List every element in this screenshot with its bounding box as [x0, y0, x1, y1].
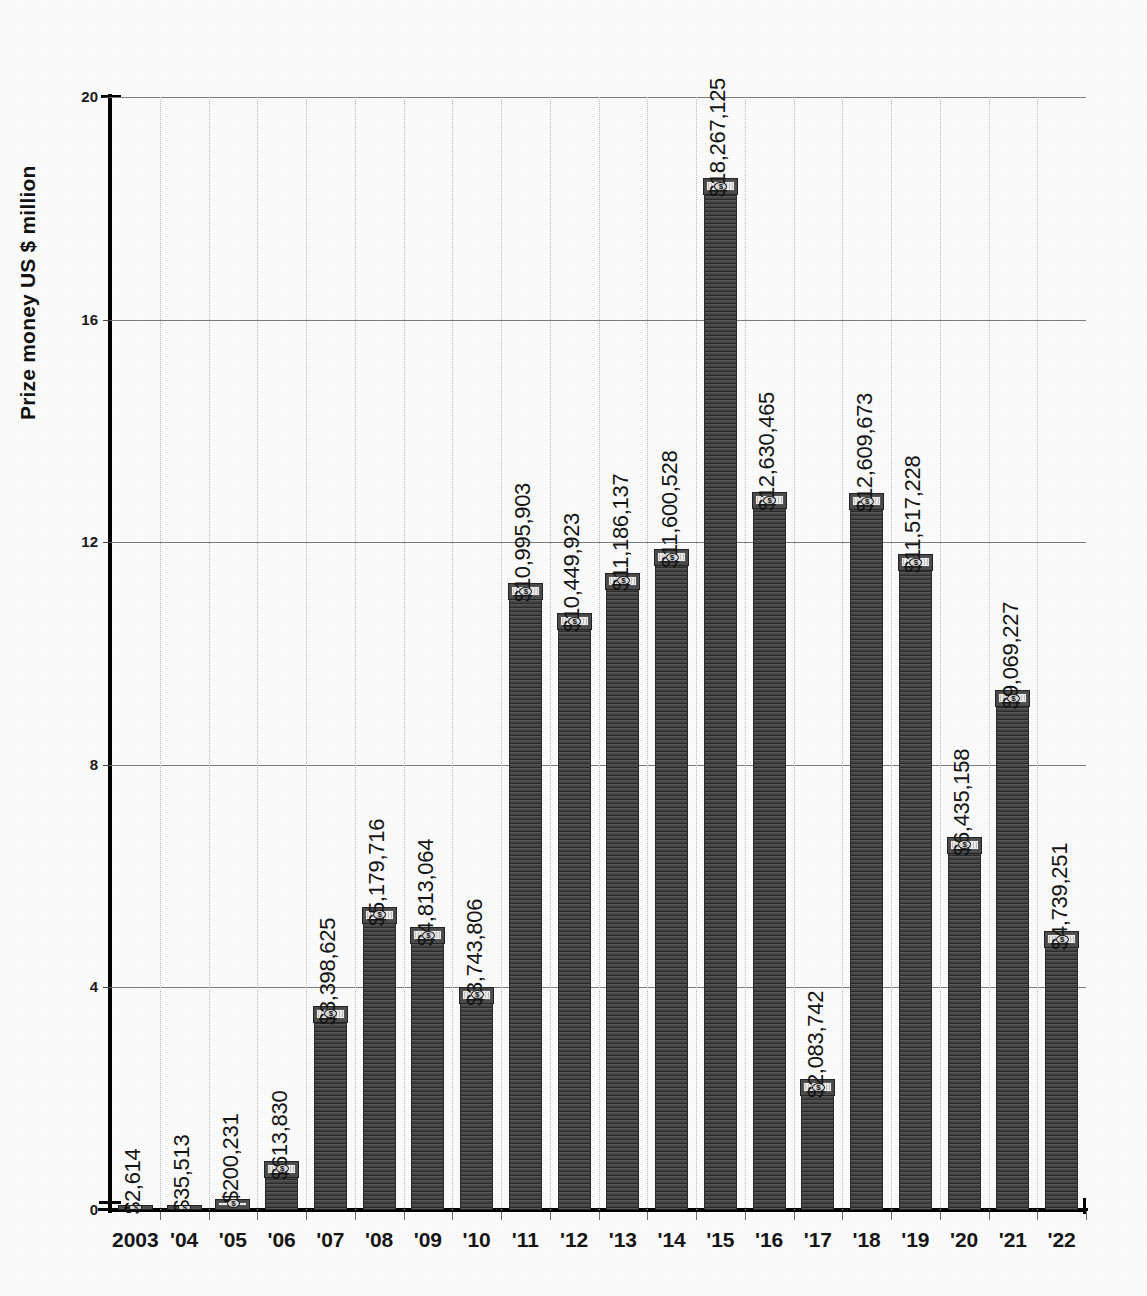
dollar-sign-icon: $	[861, 497, 874, 506]
bar-fill	[1045, 946, 1078, 1210]
bar[interactable]: $	[460, 1002, 493, 1210]
dollar-glyph: $	[472, 989, 483, 1001]
bar[interactable]: $	[558, 628, 591, 1210]
x-tick-mark-10	[647, 1211, 648, 1220]
dollar-sign-icon: $	[471, 990, 484, 999]
vertical-gridline-13	[745, 97, 746, 1210]
bar-value-label: $12,609,673	[852, 393, 878, 512]
bar-column: $	[850, 508, 883, 1210]
y-axis-title: Prize money US $ million	[16, 40, 40, 420]
dollar-glyph: $	[325, 1008, 336, 1020]
gridline-y-0	[111, 1210, 1086, 1212]
x-tick-mark-8	[550, 1211, 551, 1220]
dollar-glyph: $	[423, 930, 434, 942]
bar-value-label: $10,995,903	[510, 483, 536, 602]
bar[interactable]: $	[850, 508, 883, 1210]
dollar-glyph: $	[959, 839, 970, 851]
dollar-glyph: $	[667, 552, 678, 564]
dollar-sign-icon: $	[568, 617, 581, 626]
y-tick-label-20: 20	[58, 88, 98, 105]
bar-value-label: $11,186,137	[608, 474, 634, 591]
dollar-sign-icon: $	[1007, 694, 1020, 703]
x-tick-mark-2	[257, 1211, 258, 1220]
bar-fill	[753, 507, 786, 1210]
vertical-gridline-6	[404, 97, 405, 1210]
x-tick-mark-3	[306, 1211, 307, 1220]
dollar-glyph: $	[374, 909, 385, 921]
y-tick-label-12: 12	[58, 533, 98, 550]
bar[interactable]: $	[948, 852, 981, 1210]
dollar-sign-icon: $	[519, 587, 532, 596]
bar[interactable]: $	[411, 942, 444, 1210]
bar[interactable]: $	[606, 588, 639, 1211]
bar-column: $	[558, 628, 591, 1210]
bar[interactable]: $	[1045, 946, 1078, 1210]
bar-column: $	[363, 922, 396, 1210]
dollar-glyph: $	[910, 557, 921, 569]
x-tick-mark-5	[404, 1211, 405, 1220]
bar[interactable]: $	[704, 193, 737, 1210]
bar[interactable]: $	[363, 922, 396, 1210]
bar-fill	[655, 564, 688, 1210]
x-tick-mark-7	[501, 1211, 502, 1220]
bar[interactable]: $	[655, 564, 688, 1210]
bar[interactable]: $	[509, 598, 542, 1210]
bar[interactable]: $	[996, 705, 1029, 1210]
x-tick-mark-12	[745, 1211, 746, 1220]
dollar-glyph: $	[277, 1163, 288, 1175]
vertical-gridline-11	[647, 97, 648, 1210]
dollar-glyph: $	[1057, 934, 1068, 946]
vertical-gridline-10	[599, 97, 600, 1210]
bar-fill	[801, 1094, 834, 1210]
bar-value-label: $200,231	[218, 1113, 244, 1202]
vertical-gridline-7	[452, 97, 453, 1210]
vertical-gridline-15	[842, 97, 843, 1210]
x-tick-mark-9	[599, 1211, 600, 1220]
x-tick-mark-1	[209, 1211, 210, 1220]
dollar-sign-icon: $	[227, 1199, 240, 1208]
vertical-gridline-19	[1037, 97, 1038, 1210]
dollar-sign-icon: $	[422, 931, 435, 940]
bar-column: $	[801, 1094, 834, 1210]
bar-column: $	[948, 852, 981, 1210]
bar-column: $	[606, 588, 639, 1211]
vertical-gridline-3	[257, 97, 258, 1210]
bar[interactable]: $	[314, 1021, 347, 1210]
bar-value-label: $2,614	[120, 1148, 146, 1214]
dollar-glyph: $	[715, 181, 726, 193]
vertical-gridline-12	[696, 97, 697, 1210]
vertical-gridline-8	[501, 97, 502, 1210]
bar[interactable]: $	[899, 569, 932, 1210]
bar-value-label: $35,513	[169, 1135, 195, 1212]
bar-value-label: $18,267,125	[705, 78, 731, 197]
bar-fill	[509, 598, 542, 1210]
bar[interactable]: $	[265, 1176, 298, 1210]
y-tick-label-0: 0	[58, 1201, 98, 1218]
x-tick-mark-4	[355, 1211, 356, 1220]
dollar-sign-icon: $	[714, 182, 727, 191]
bar-fill	[265, 1176, 298, 1210]
bar-column: $	[1045, 946, 1078, 1210]
bar-column: $	[509, 598, 542, 1210]
bar-fill	[558, 628, 591, 1210]
bar-fill	[704, 193, 737, 1210]
bar[interactable]: $	[801, 1094, 834, 1210]
dollar-sign-icon: $	[1056, 935, 1069, 944]
bar-column: $	[314, 1021, 347, 1210]
vertical-gridline-9	[550, 97, 551, 1210]
x-tick-mark-19	[1086, 1211, 1087, 1220]
bar-chart: Prize money US $ million 048121620 2003'…	[0, 0, 1147, 1296]
x-tick-mark-11	[696, 1211, 697, 1220]
x-tick-mark-0	[160, 1211, 161, 1220]
vertical-gridline-14	[794, 97, 795, 1210]
bar[interactable]: $	[753, 507, 786, 1210]
bar-fill	[948, 852, 981, 1210]
bar-fill	[411, 942, 444, 1210]
dollar-glyph: $	[764, 495, 775, 507]
bar-column: $	[411, 942, 444, 1210]
bar-fill	[314, 1021, 347, 1210]
bar-column: $	[899, 569, 932, 1210]
dollar-glyph: $	[569, 616, 580, 628]
bar-column: $	[996, 705, 1029, 1210]
bar-fill	[363, 922, 396, 1210]
